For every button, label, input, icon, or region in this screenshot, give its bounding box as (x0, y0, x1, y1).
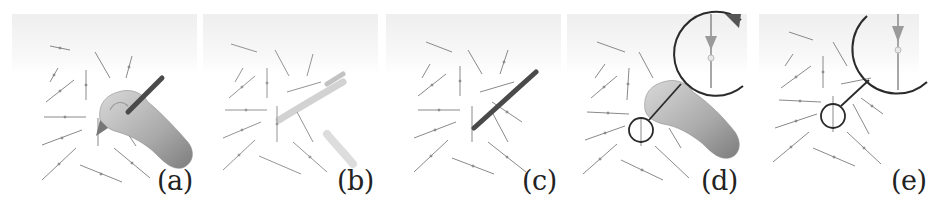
magnified-arrow-icon (705, 14, 741, 88)
panel-label: (b) (337, 167, 374, 194)
panel-label: (d) (701, 167, 738, 194)
magnified-arrow-icon (892, 14, 904, 90)
magnifier-inset (821, 16, 927, 128)
vector-field-arrows (223, 44, 327, 174)
panel-a: (a) (0, 14, 195, 196)
figure: (a) (0, 0, 939, 212)
panel-b: (b) (195, 14, 380, 196)
magnifier-connector (841, 80, 869, 106)
vector-field-arrows (414, 42, 526, 174)
panel-c: (c) (380, 14, 565, 196)
stylus-icon (474, 72, 536, 128)
vector-field-arrows (773, 32, 883, 166)
panel-label: (e) (891, 167, 927, 194)
panel-d: (d) (565, 14, 755, 196)
panel-e: (e) (755, 14, 939, 196)
hand-icon (645, 80, 740, 158)
faded-trace (279, 74, 353, 164)
magnifier-circle (674, 12, 743, 96)
magnifier-circle (852, 16, 927, 94)
panel-label: (a) (157, 167, 193, 194)
panel-label: (c) (522, 167, 557, 194)
hand-icon (96, 90, 192, 168)
